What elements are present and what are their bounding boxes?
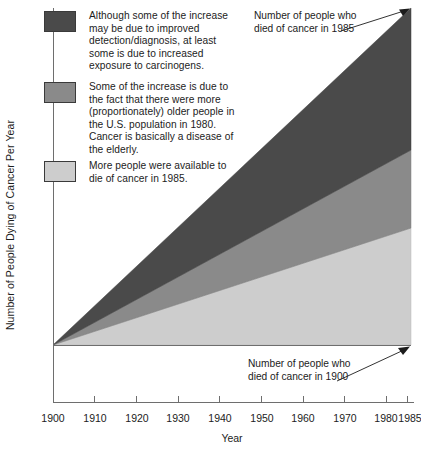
legend-swatch-availability [44,161,76,182]
callout-text-1985: Number of people who died of cancer in 1… [254,10,357,35]
x-tick-label-1940: 1940 [208,412,231,424]
y-axis-title: Number of People Dying of Cancer Per Yea… [0,0,20,450]
legend-entry-carcinogens: Although some of the increase may be due… [44,10,235,73]
x-tick-label-1980: 1980 [374,412,397,424]
x-tick-label-1970: 1970 [333,412,356,424]
legend-swatch-carcinogens [44,11,76,32]
x-tick-label-1960: 1960 [291,412,314,424]
legend-entry-aging: Some of the increase is due to the fact … [44,81,241,157]
x-tick-label-1950: 1950 [250,412,273,424]
x-tick-label-1900: 1900 [41,412,64,424]
x-axis-title: Year [53,432,411,444]
x-tick-label-1920: 1920 [125,412,148,424]
x-tick-label-1930: 1930 [166,412,189,424]
cancer-deaths-area-chart: Although some of the increase may be due… [0,0,421,450]
legend-label-availability: More people were available to die of can… [89,160,235,185]
callout-text-1900: Number of people who died of cancer in 1… [248,358,351,383]
x-axis-ticks [54,396,408,403]
x-tick-label-1985: 1985 [398,412,421,424]
legend-label-carcinogens: Although some of the increase may be due… [89,10,235,73]
x-tick-label-1910: 1910 [83,412,106,424]
legend-swatch-aging [44,82,76,103]
legend-entry-availability: More people were available to die of can… [44,160,235,185]
legend-label-aging: Some of the increase is due to the fact … [89,81,241,157]
